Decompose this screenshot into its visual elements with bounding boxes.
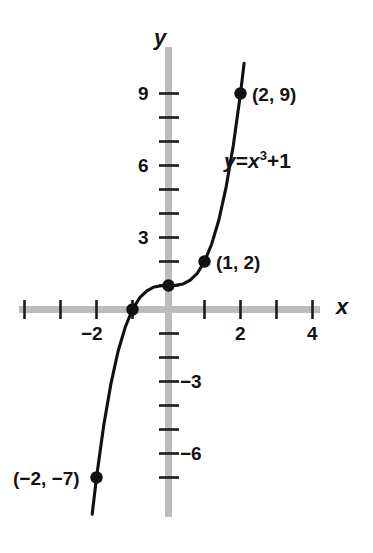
y-tick-label-6: 6 bbox=[138, 156, 148, 175]
equation-plus: + bbox=[267, 149, 279, 172]
point-0-1 bbox=[162, 279, 174, 291]
x-tick-label-neg2: −2 bbox=[81, 324, 102, 343]
equation-exponent: 3 bbox=[260, 148, 267, 163]
equation-lhs: y bbox=[224, 149, 236, 172]
x-tick-label-2: 2 bbox=[235, 324, 245, 343]
point-neg2-neg7 bbox=[90, 471, 102, 483]
point-1-2 bbox=[198, 255, 210, 267]
y-axis-label: y bbox=[154, 27, 166, 49]
equation-constant: 1 bbox=[279, 149, 291, 172]
point-neg1-0 bbox=[126, 303, 138, 315]
y-tick-label-9: 9 bbox=[138, 84, 148, 103]
x-axis-label: x bbox=[336, 296, 348, 318]
y-tick-label-3: 3 bbox=[138, 228, 148, 247]
graph-figure: y x 9 6 3 −3 −6 −2 2 4 (2, 9) (1, 2) (−2… bbox=[0, 0, 373, 553]
equation-label: y=x3+1 bbox=[224, 150, 291, 171]
equation-equals: = bbox=[236, 149, 248, 172]
equation-base: x bbox=[248, 149, 260, 172]
point-2-9 bbox=[234, 87, 246, 99]
x-tick-label-4: 4 bbox=[307, 324, 317, 343]
y-tick-label-neg6: −6 bbox=[180, 444, 201, 463]
y-tick-label-neg3: −3 bbox=[180, 372, 201, 391]
point-label-neg2-neg7: (−2, −7) bbox=[13, 469, 80, 488]
point-label-2-9: (2, 9) bbox=[252, 85, 296, 104]
point-label-1-2: (1, 2) bbox=[216, 253, 260, 272]
